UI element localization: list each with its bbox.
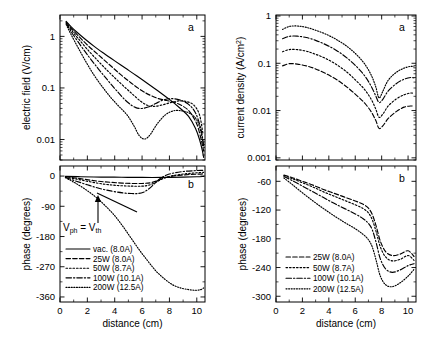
y-axis-label-text: phase (degrees) [237,198,248,271]
y-tick-label: 0.1 [42,82,55,93]
y-tick-label: -180 [36,231,55,242]
legend-label: 100W (10.1A) [313,274,364,283]
panel-label-a-right: a [399,21,405,33]
curve-100w10.1a [283,36,414,103]
legend-label: 25W (8.0A) [93,255,135,264]
x-tick-label: 2 [300,305,305,316]
y-tick-label: 0.001 [247,152,271,163]
panel-label-a-left: a [188,21,194,33]
figure-canvas: 10.10.010-90-180-270-3600246810distance … [0,0,427,349]
y-tick-label: 1 [50,31,55,42]
panel-b--right-: -60-120-180-240-3000246810distance (cm) [252,166,416,329]
curve-25w8.0a [65,174,203,184]
x-tick-label: 8 [167,305,172,316]
x-tick-label: 2 [85,305,90,316]
y-tick-label: 0 [50,170,55,181]
curve-vac.8.0a [65,176,203,177]
axes-frame [276,15,416,160]
legend-label: 200W (12.5A) [93,283,144,292]
y-axis-label-phase-left: phase (degrees) [21,198,32,271]
curve-200w12.5a [283,26,414,98]
legend-label: 25W (8.0A) [313,253,355,262]
curve-50w8.7a [284,176,414,261]
curve-50w8.7a [66,23,203,134]
curve-vac.8.0a [66,21,203,157]
y-axis-label-text: phase (degrees) [21,198,32,271]
x-tick-label: 6 [139,305,144,316]
annotation-label: Vph = Vth [63,222,101,235]
y-tick-label: -270 [36,261,55,272]
y-axis-label-text: electric field (V/cm) [21,45,32,130]
y-tick-label: 1 [266,10,271,21]
y-tick-label: 0.1 [258,58,271,69]
legend: vac. (8.0A)25W (8.0A)50W (8.7A)100W (10.… [66,245,144,292]
y-tick-label: -60 [257,176,271,187]
legend-label: vac. (8.0A) [93,245,133,254]
legend-label: 100W (10.1A) [93,274,144,283]
annotation-pointer-line [97,193,137,212]
y-tick-label: 0.01 [37,134,56,145]
y-tick-label: -300 [252,291,271,302]
y-axis-label-phase-right: phase (degrees) [237,198,248,271]
scientific-figure: 10.10.010-90-180-270-3600246810distance … [0,0,427,349]
panel-a--right-: 10.10.010.001 [247,10,416,163]
x-axis-label: distance (cm) [316,318,376,329]
y-axis-label-current-density: current density (A/cm2) [234,37,246,139]
y-axis-label-text: current density (A/cm2) [234,37,246,139]
annotation-vph-vth: Vph = Vth [63,193,137,235]
series-group [283,26,414,129]
x-tick-label: 0 [273,305,278,316]
x-tick-label: 10 [192,305,203,316]
y-tick-label: -120 [252,204,271,215]
y-tick-label: -360 [36,291,55,302]
y-tick-label: 0.01 [253,105,272,116]
x-tick-label: 8 [379,305,384,316]
x-tick-label: 4 [326,305,331,316]
x-tick-label: 4 [112,305,117,316]
legend-label: 50W (8.7A) [93,264,135,273]
legend: 25W (8.0A)50W (8.7A)100W (10.1A)200W (12… [286,253,364,294]
x-tick-label: 0 [57,305,62,316]
x-axis-label: distance (cm) [102,318,162,329]
panel-label-b-right: b [399,172,405,184]
y-tick-label: -90 [41,201,55,212]
y-tick-label: -240 [252,262,271,273]
series-group [66,21,203,157]
annotation-arrow-head [95,195,101,202]
y-axis-label-electric-field: electric field (V/cm) [21,45,32,130]
panel-a--left-: 10.10.01 [37,15,206,160]
x-tick-label: 6 [353,305,358,316]
curve-25w8.0a [66,22,203,151]
legend-label: 50W (8.7A) [313,264,355,273]
panel-label-b-left: b [188,178,194,190]
x-tick-label: 10 [403,305,414,316]
y-tick-label: -180 [252,233,271,244]
legend-label: 200W (12.5A) [313,285,364,294]
